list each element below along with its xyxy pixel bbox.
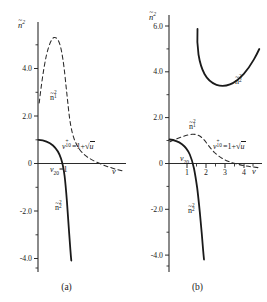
- panel-a-label-v10-formula: v+10=1+√u: [62, 141, 95, 151]
- panel-b-tick-4: 4.0: [133, 68, 163, 76]
- panel-b-tick-2: 2.0: [133, 114, 163, 122]
- panel-a-caption: (a): [0, 282, 133, 292]
- panel-a-tick-neg4: -4.0: [2, 255, 32, 263]
- panel-b-label-v20: v20: [180, 155, 189, 165]
- panel-a-tick-neg2: -2.0: [2, 208, 32, 216]
- panel-b-xtick-2: 2: [200, 169, 212, 177]
- panel-b-label-n1-squared: ~n21: [189, 121, 197, 131]
- panel-b-tick-0: 0: [133, 160, 163, 168]
- panel-a-x-axis-label: v: [112, 167, 116, 176]
- panel-b: ~n2 v 6.0 4.0 2.0 0 -2.0 -4.0 1 2 3 4 ~n…: [131, 0, 264, 302]
- panel-a-tick-0: 0: [2, 160, 32, 168]
- panel-b-curve-n2-squared-upper: [197, 29, 259, 86]
- panel-a-label-v20: v20=1: [50, 166, 68, 176]
- panel-b-x-axis-label: v: [252, 167, 256, 176]
- panel-a-label-n1-squared: ~n21: [50, 92, 58, 102]
- panel-b-caption: (b): [131, 282, 264, 292]
- panel-b-xtick-1: 1: [181, 169, 193, 177]
- figure-two-panel-plot: ~n2 v 4.0 2.0 0 -2.0 -4.0 ~n21 ~n22 v+10…: [0, 0, 267, 302]
- panel-b-xtick-4: 4: [238, 169, 250, 177]
- panel-b-tick-neg4: -4.0: [133, 252, 163, 260]
- panel-a: ~n2 v 4.0 2.0 0 -2.0 -4.0 ~n21 ~n22 v+10…: [0, 0, 133, 302]
- panel-a-tick-4: 4.0: [2, 65, 32, 73]
- panel-a-y-axis-label: ~n2: [18, 20, 25, 29]
- panel-b-label-v10-formula: v+10=1+√u: [213, 141, 246, 151]
- panel-b-xtick-3: 3: [219, 169, 231, 177]
- panel-b-tick-6: 6.0: [133, 23, 163, 31]
- panel-a-y-ticks: [34, 69, 38, 259]
- panel-a-tick-2: 2.0: [2, 113, 32, 121]
- panel-a-label-n2-squared: ~n22: [55, 202, 63, 212]
- panel-b-y-axis-label: ~n2: [149, 12, 156, 21]
- panel-b-label-n2-squared-upper: ~n22: [235, 76, 243, 86]
- panel-b-label-n2-squared-lower: ~n22: [188, 205, 196, 215]
- panel-b-tick-neg2: -2.0: [133, 206, 163, 214]
